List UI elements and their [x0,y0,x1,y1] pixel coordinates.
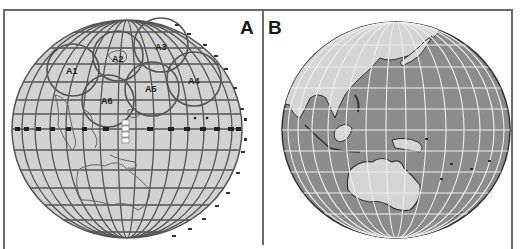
panel-a-globe: A1 A2 A3 A4 A5 A6 [0,18,260,238]
coverage-label-a4: A4 [188,76,200,86]
coverage-label-a1: A1 [66,66,78,76]
coverage-label-a5: A5 [145,84,157,94]
coverage-label-a6: A6 [101,96,113,106]
panel-b-globe [270,20,520,238]
panel-label-a: A [240,18,254,37]
panel-label-b: B [268,18,282,37]
coverage-label-a3: A3 [155,42,167,52]
coverage-label-a2: A2 [112,54,124,64]
